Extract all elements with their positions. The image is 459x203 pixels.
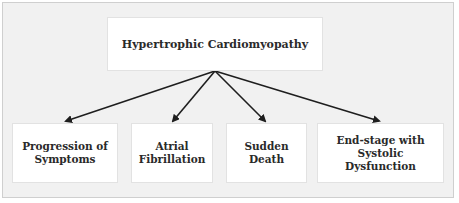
child-node-label: Progression of Symptoms bbox=[22, 140, 108, 166]
child-node-sudden-death: Sudden Death bbox=[226, 123, 307, 183]
child-node-end-stage-systolic-dysfunction: End-stage with Systolic Dysfunction bbox=[317, 123, 444, 183]
child-node-atrial-fibrillation: Atrial Fibrillation bbox=[131, 123, 213, 183]
root-node-label: Hypertrophic Cardiomyopathy bbox=[122, 38, 308, 51]
child-node-label: Sudden Death bbox=[244, 140, 288, 166]
root-node: Hypertrophic Cardiomyopathy bbox=[107, 17, 323, 71]
child-node-label: Atrial Fibrillation bbox=[139, 140, 206, 166]
child-node-label: End-stage with Systolic Dysfunction bbox=[336, 134, 424, 173]
child-node-progression-of-symptoms: Progression of Symptoms bbox=[12, 123, 118, 183]
